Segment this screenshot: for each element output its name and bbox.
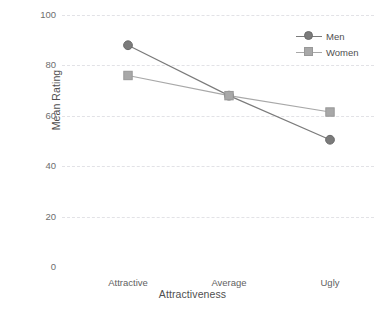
y-tick-label: 0 xyxy=(16,262,56,272)
legend-marker-women xyxy=(296,45,322,59)
x-axis-title: Attractiveness xyxy=(0,288,385,300)
legend: MenWomen xyxy=(296,29,382,61)
y-tick-label: 20 xyxy=(16,212,56,222)
data-point-women-average xyxy=(225,91,233,99)
legend-item-men[interactable]: Men xyxy=(296,29,382,43)
data-point-men-ugly xyxy=(326,135,335,144)
legend-symbol-circle-icon xyxy=(304,31,313,40)
line-chart: Mean Rating 020406080100 AttractiveAvera… xyxy=(0,0,385,314)
legend-marker-men xyxy=(296,29,322,43)
x-tick-label: Ugly xyxy=(285,277,375,288)
data-point-men-attractive xyxy=(124,41,133,50)
x-tick-label: Attractive xyxy=(83,277,173,288)
data-point-women-attractive xyxy=(124,71,132,79)
legend-label: Men xyxy=(322,31,344,42)
legend-label: Women xyxy=(322,47,359,58)
y-tick-label: 100 xyxy=(16,10,56,20)
x-tick-label: Average xyxy=(184,277,274,288)
legend-symbol-square-icon xyxy=(304,47,313,56)
y-tick-label: 80 xyxy=(16,60,56,70)
y-tick-label: 60 xyxy=(16,111,56,121)
data-point-women-ugly xyxy=(326,108,334,116)
y-tick-label: 40 xyxy=(16,161,56,171)
legend-item-women[interactable]: Women xyxy=(296,45,382,59)
